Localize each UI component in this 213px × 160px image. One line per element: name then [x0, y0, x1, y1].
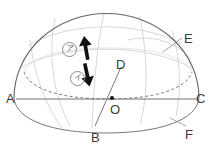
- point-label-d: D: [116, 58, 125, 71]
- annotation-circled-a: ア: [62, 42, 77, 57]
- up-arrow-icon: [79, 36, 92, 60]
- equator-back-arc: [24, 48, 192, 72]
- point-label-e: E: [184, 32, 193, 45]
- point-label-c: C: [196, 92, 205, 105]
- bowl-front-arc: [14, 98, 199, 133]
- meridian-left-icon: [30, 40, 62, 128]
- dome-drawing: [0, 0, 213, 160]
- latitude-mid-icon: [20, 49, 192, 68]
- point-label-f: F: [185, 128, 193, 141]
- point-label-b: B: [91, 131, 100, 144]
- faint-surface-curves: [20, 14, 192, 128]
- equator-dashed-arc: [24, 72, 192, 99]
- point-label-a: A: [6, 92, 15, 105]
- leader-line-f: [170, 118, 186, 126]
- celestial-dome-figure: A B C D E F O ア イ: [0, 0, 213, 160]
- axis-line-d-o-b: [95, 67, 121, 126]
- meridian-right-inner-icon: [140, 16, 146, 124]
- center-point-o-marker: [110, 96, 114, 100]
- point-label-o: O: [110, 103, 120, 116]
- annotation-circled-i: イ: [70, 71, 85, 86]
- meridian-center-icon: [92, 14, 104, 128]
